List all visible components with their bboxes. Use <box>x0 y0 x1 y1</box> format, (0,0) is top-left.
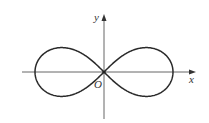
x-axis-label: x <box>188 73 194 85</box>
y-axis-label: y <box>93 11 99 23</box>
lemniscate-diagram: y x O <box>0 0 209 123</box>
y-axis-arrow-icon <box>102 14 107 21</box>
origin-point <box>102 70 105 73</box>
origin-label: O <box>94 78 102 90</box>
